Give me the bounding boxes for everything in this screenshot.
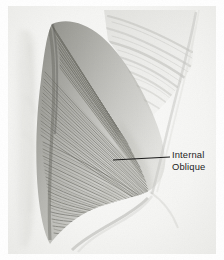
label-internal-oblique: Internal Oblique xyxy=(172,149,205,172)
anatomy-illustration-canvas xyxy=(0,0,224,260)
paper-grain-overlay xyxy=(0,0,224,260)
label-line-1: Internal xyxy=(172,149,205,161)
label-line-2: Oblique xyxy=(172,161,205,173)
anatomy-figure: Internal Oblique xyxy=(0,0,224,260)
